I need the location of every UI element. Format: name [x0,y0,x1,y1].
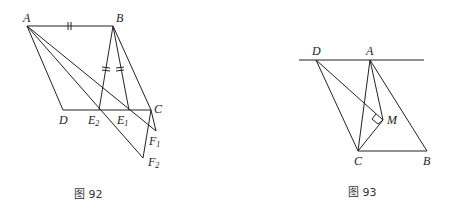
figure-92: A B C D E2 E1 F1 F2 图 92 [22,11,163,201]
label-E2: E2 [87,113,99,128]
label-D: D [311,44,321,58]
label-F2: F2 [147,155,159,170]
caption-fig93: 图 93 [348,186,377,199]
label-F1: F1 [148,134,160,149]
segment-AC [358,60,370,151]
label-A: A [365,44,374,58]
label-M: M [386,113,398,127]
segment-DM [316,60,383,120]
figure-93: D A M C B 图 93 [299,44,431,199]
caption-fig92: 图 92 [74,188,103,201]
label-B: B [423,154,431,168]
geometry-figures: A B C D E2 E1 F1 F2 图 92 D A M C B 图 93 [0,0,455,215]
label-C: C [154,102,163,116]
tick-marks [68,22,124,71]
segment-AM [370,60,383,120]
label-D: D [58,113,68,127]
label-B: B [116,11,124,25]
label-C: C [354,154,363,168]
segment-AD [27,26,63,110]
label-A: A [22,11,31,25]
segment-AB [370,60,427,151]
label-E1: E1 [116,113,128,128]
segment-DC [316,60,358,151]
